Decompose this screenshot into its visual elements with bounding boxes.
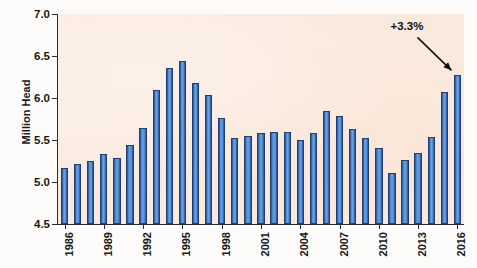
bar (401, 160, 408, 224)
x-tick (300, 224, 301, 229)
y-tick (52, 14, 58, 15)
annotation-label: +3.3% (390, 20, 423, 32)
bar (192, 83, 199, 224)
bar (61, 168, 68, 224)
bar (297, 140, 304, 224)
x-tick-label: 2007 (338, 232, 350, 256)
bar (388, 173, 395, 224)
bar (323, 111, 330, 224)
bar (284, 132, 291, 224)
bar (218, 118, 225, 224)
x-tick (457, 224, 458, 229)
bar (139, 128, 146, 224)
y-tick (52, 56, 58, 57)
plot-area: 4.55.05.56.06.57.0 198619891992199519982… (57, 14, 464, 225)
bar (87, 161, 94, 224)
x-tick (143, 224, 144, 229)
bar (113, 158, 120, 224)
x-tick (418, 224, 419, 229)
y-tick (52, 224, 58, 225)
bar (270, 132, 277, 224)
bar (257, 133, 264, 224)
bar (310, 133, 317, 224)
bar-chart: Million Head 4.55.05.56.06.57.0 19861989… (0, 0, 477, 268)
x-tick-label: 1986 (63, 232, 75, 256)
bar (166, 68, 173, 224)
x-tick (182, 224, 183, 229)
bar (179, 61, 186, 224)
bar (375, 148, 382, 224)
bar (428, 137, 435, 224)
y-tick (52, 140, 58, 141)
bar (244, 136, 251, 224)
bar (205, 95, 212, 224)
y-tick (52, 182, 58, 183)
y-tick-label: 7.0 (34, 8, 50, 20)
x-tick-label: 2001 (259, 232, 271, 256)
x-tick-label: 1995 (180, 232, 192, 256)
bar (74, 164, 81, 224)
bar (454, 75, 461, 224)
bar (231, 138, 238, 224)
x-tick (261, 224, 262, 229)
bar (441, 92, 448, 224)
x-tick (340, 224, 341, 229)
bar (349, 129, 356, 224)
y-tick-label: 6.0 (34, 92, 50, 104)
y-axis-title: Million Head (20, 42, 32, 182)
bar (336, 116, 343, 224)
x-tick-label: 1998 (220, 232, 232, 256)
x-tick-label: 2004 (298, 232, 310, 256)
bar (414, 153, 421, 224)
bar (362, 138, 369, 224)
y-tick-label: 4.5 (34, 218, 50, 230)
y-tick-label: 5.0 (34, 176, 50, 188)
x-tick-label: 2013 (416, 232, 428, 256)
y-tick-label: 5.5 (34, 134, 50, 146)
x-tick (222, 224, 223, 229)
bar (100, 154, 107, 224)
bar (126, 145, 133, 224)
y-tick (52, 98, 58, 99)
x-tick-label: 2010 (377, 232, 389, 256)
x-tick (104, 224, 105, 229)
x-tick-label: 1989 (102, 232, 114, 256)
y-tick-label: 6.5 (34, 50, 50, 62)
x-tick (65, 224, 66, 229)
x-tick-label: 1992 (141, 232, 153, 256)
bar (153, 90, 160, 224)
x-tick (379, 224, 380, 229)
x-tick-label: 2016 (455, 232, 467, 256)
